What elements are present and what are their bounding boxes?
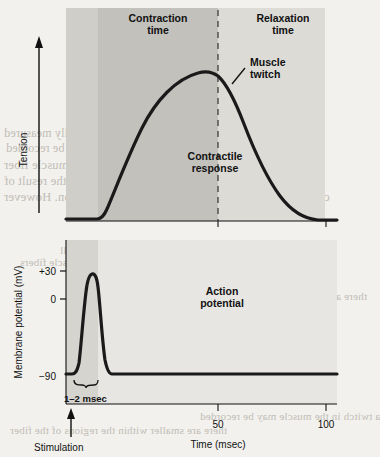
time-axis-label: Time (msec) xyxy=(190,439,245,450)
stimulation-label: Stimulation xyxy=(34,442,83,453)
action-potential-label-line2: potential xyxy=(200,297,244,309)
muscle-twitch-label-line1: Muscle xyxy=(250,56,286,68)
relaxation-time-label-line1: Relaxation xyxy=(256,12,309,24)
membrane-potential-axis-label: Membrane potential (mV) xyxy=(13,266,24,379)
bottom-y-ticklabel-zero: 0 xyxy=(50,294,56,305)
relaxation-time-label-line2: time xyxy=(272,24,294,36)
bottom-y-ticklabel-plus30: +30 xyxy=(39,266,56,277)
contraction-time-label-line2: time xyxy=(147,24,169,36)
bottom-x-ticklabel-100: 100 xyxy=(318,419,335,430)
prestimulus-shade xyxy=(66,8,98,221)
tension-axis-arrow xyxy=(35,36,43,213)
duration-label: 1–2 msec xyxy=(64,393,107,404)
action-potential-label-line1: Action xyxy=(206,285,239,297)
tension-axis-label: Tension xyxy=(18,133,29,167)
contraction-time-label-line1: Contraction xyxy=(129,12,188,24)
stimulation-arrow-icon xyxy=(67,408,75,437)
bottom-y-ticklabel-minus90: −90 xyxy=(39,371,56,382)
contractile-response-label-line2: response xyxy=(192,162,239,174)
contractile-response-label-line1: Contractile xyxy=(188,150,243,162)
bottom-x-ticklabel-50: 50 xyxy=(212,419,224,430)
bottom-panel-shade-light xyxy=(66,240,337,404)
muscle-twitch-label-line2: twitch xyxy=(250,68,280,80)
